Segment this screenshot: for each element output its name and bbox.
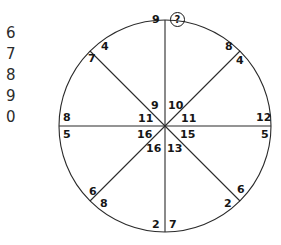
label-upper-right-arc-outer: 8 [225,41,233,52]
label-center-upper-left: 9 [151,100,159,111]
label-top-left-of-vertical: 9 [152,14,160,25]
label-upper-left-arc-outer: 4 [101,41,109,52]
label-center-right-upper: 11 [181,113,196,124]
label-left-below-horizontal: 5 [63,129,71,140]
label-right-below-horizontal: 5 [261,129,269,140]
label-right-above-horizontal: 12 [256,112,271,123]
label-center-lower-right: 13 [167,143,182,154]
label-center-right-lower: 15 [180,129,195,140]
label-center-lower-left: 16 [146,143,161,154]
label-upper-left-arc-inner: 7 [88,53,96,64]
label-lower-right-arc-outer: 6 [237,184,245,195]
label-lower-left-arc-inner: 8 [100,198,108,209]
unknown-angle-marker: ? [170,12,185,27]
label-lower-right-arc-inner: 2 [224,198,232,209]
label-upper-right-arc-inner: 4 [236,55,244,66]
circle-diagram: 9 ? 4 7 8 4 8 5 12 5 9 10 11 11 16 15 16… [0,0,281,245]
label-center-upper-right: 10 [168,100,183,111]
worksheet-page: 6 7 8 9 0 9 ? 4 7 8 4 8 5 12 5 9 10 [0,0,281,245]
label-bottom-right-of-vertical: 7 [169,219,177,230]
label-bottom-left-of-vertical: 2 [152,219,160,230]
label-center-left-lower: 16 [137,129,152,140]
label-center-left-upper: 11 [138,113,153,124]
label-left-above-horizontal: 8 [63,112,71,123]
label-lower-left-arc-outer: 6 [89,186,97,197]
